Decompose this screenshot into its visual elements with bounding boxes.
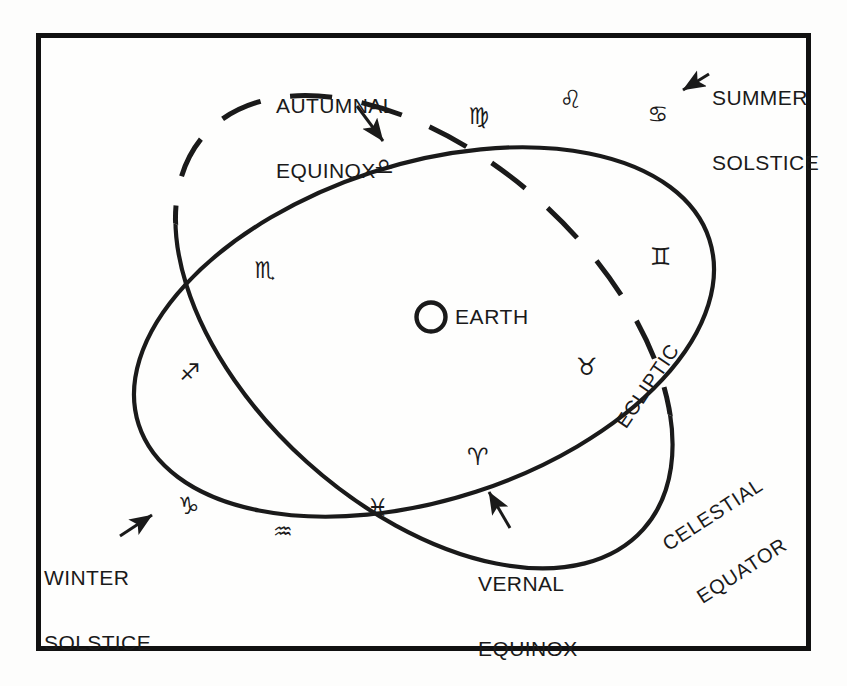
zodiac-symbol-leo: ♌ <box>560 87 582 112</box>
summer-solstice-label-line2: SOLSTICE <box>712 152 819 174</box>
summer-solstice-label-line1: SUMMER <box>712 87 819 109</box>
vernal-equinox-label-line1: VERNAL <box>478 573 578 595</box>
autumnal-equinox-label: AUTUMNAL EQUINOX <box>276 52 395 225</box>
earth-body <box>417 303 446 332</box>
summer-solstice-arrow <box>683 74 709 90</box>
vernal-equinox-label: VERNAL EQUINOX <box>478 530 578 686</box>
summer-solstice-label: SUMMER SOLSTICE <box>712 44 819 217</box>
zodiac-symbol-sagittarius: ♐ <box>180 361 201 384</box>
zodiac-symbol-virgo: ♍ <box>469 105 490 128</box>
zodiac-symbol-aquarius: ♒ <box>273 521 293 543</box>
autumnal-equinox-label-line1: AUTUMNAL <box>276 95 395 117</box>
zodiac-symbol-aries: ♈ <box>467 445 489 469</box>
zodiac-symbol-scorpio: ♏ <box>255 259 276 282</box>
vernal-equinox-label-line2: EQUINOX <box>478 638 578 660</box>
winter-solstice-label: WINTER SOLSTICE <box>44 524 151 686</box>
winter-solstice-label-line2: SOLSTICE <box>44 632 151 654</box>
celestial-equator-label-line2: EQUATOR <box>693 527 801 607</box>
celestial-equator-label-line1: CELESTIAL <box>659 475 767 555</box>
zodiac-symbol-pisces: ♓ <box>367 496 389 520</box>
autumnal-equinox-label-line2: EQUINOX <box>276 160 395 182</box>
zodiac-symbol-capricorn: ♑ <box>178 494 200 518</box>
vernal-equinox-arrow <box>489 492 510 528</box>
zodiac-symbol-cancer: ♋ <box>648 103 669 126</box>
earth-label: EARTH <box>455 305 529 329</box>
diagram-figure: ♍♌♋♊♉♈♓♒♑♐♏♎ AUTUMNAL EQUINOX SUMMER SOL… <box>0 0 847 686</box>
zodiac-symbol-taurus: ♉ <box>576 355 598 379</box>
winter-solstice-label-line1: WINTER <box>44 567 151 589</box>
zodiac-symbol-gemini: ♊ <box>650 245 672 269</box>
